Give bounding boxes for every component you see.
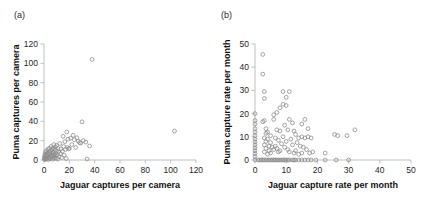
y-tick-label: 0 [33,155,38,165]
x-tick-label: 30 [344,165,354,175]
x-tick-label: 0 [253,165,258,175]
data-point [277,138,281,142]
data-point [281,135,285,139]
data-point [287,118,291,122]
x-tick-label: 100 [164,165,178,175]
data-point [280,142,284,146]
panel-b-plot: 0102030405001020304050Jaguar capture rat… [213,0,426,207]
x-tick-label: 50 [406,165,416,175]
data-point [262,97,266,101]
x-tick-label: 0 [42,165,47,175]
y-tick-label: 30 [240,85,250,95]
data-point [70,143,74,147]
x-tick-label: 40 [375,165,385,175]
data-point [269,134,273,138]
data-point [345,134,349,138]
panel-a: (a) 020406080100120020406080100120Jaguar… [0,0,213,207]
data-point [286,128,290,132]
x-tick-label: 10 [281,165,291,175]
data-point [278,106,282,110]
x-axis-title: Jaguar captures per camera [60,180,181,190]
data-point [303,118,307,122]
x-axis-title: Jaguar capture rate per month [268,180,398,190]
data-point [272,118,276,122]
panel-a-plot: 020406080100120020406080100120Jaguar cap… [0,0,213,207]
y-tick-label: 50 [240,39,250,49]
panel-b: (b) 0102030405001020304050Jaguar capture… [213,0,426,207]
y-tick-label: 20 [240,109,250,119]
data-point [353,128,357,132]
data-point [261,72,265,76]
y-tick-label: 0 [244,155,249,165]
data-point [61,134,65,138]
data-point [291,143,295,147]
panel-b-label: (b) [221,10,232,20]
data-point [284,95,288,99]
data-point [295,141,299,145]
data-point [275,111,279,115]
figure-container: (a) 020406080100120020406080100120Jaguar… [0,0,426,207]
y-tick-label: 40 [240,62,250,72]
x-tick-label: 120 [189,165,203,175]
x-tick-label: 20 [65,165,75,175]
data-point [74,146,78,150]
data-point [287,90,291,94]
data-point [281,90,285,94]
panel-a-label: (a) [14,10,25,20]
y-tick-label: 10 [240,132,250,142]
data-point [58,142,62,146]
data-point [323,151,327,155]
data-point [305,148,309,152]
data-point [173,129,177,133]
data-point [306,127,310,131]
data-point [88,144,92,148]
y-tick-label: 20 [29,136,39,146]
data-point [291,121,295,125]
y-tick-label: 100 [24,58,38,68]
x-tick-label: 60 [115,165,125,175]
data-point [65,130,69,134]
data-point-group [42,58,176,162]
x-tick-label: 40 [90,165,100,175]
y-tick-label: 60 [29,97,39,107]
y-tick-label: 80 [29,78,39,88]
y-tick-label: 40 [29,116,39,126]
x-tick-label: 20 [313,165,323,175]
data-point [269,141,273,145]
y-axis-title: Puma captures per camera [11,43,21,159]
y-tick-label: 120 [24,39,38,49]
data-point [289,137,293,141]
data-point [90,58,94,62]
data-point [262,90,266,94]
data-point [300,122,304,126]
data-point-group [253,53,357,162]
data-point [284,140,288,144]
data-point [71,133,75,137]
data-point [294,133,298,137]
x-tick-label: 80 [141,165,151,175]
data-point [283,123,287,127]
data-point [261,53,265,57]
y-axis-title: Puma capture rate per month [222,39,232,164]
data-point [80,120,84,124]
